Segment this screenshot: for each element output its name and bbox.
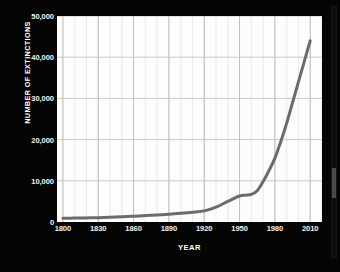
chart-figure: NUMBER OF EXTINCTIONS 010,00020,00030,00… (0, 0, 340, 272)
major-vertical-gridlines (63, 16, 310, 222)
x-axis-tick-label: 1950 (231, 224, 248, 233)
x-axis-tick-label: 1920 (196, 224, 213, 233)
data-series-lines (63, 41, 310, 219)
x-axis-title: YEAR (57, 243, 322, 252)
y-axis-tick-label: 20,000 (10, 135, 54, 144)
x-axis-tick-label: 1890 (161, 224, 178, 233)
chart-canvas (57, 16, 322, 222)
plot-area (57, 16, 322, 222)
x-axis-tick-label: 1800 (55, 224, 72, 233)
minor-vertical-gridlines (63, 16, 322, 222)
x-axis-tick-label: 1860 (125, 224, 142, 233)
y-axis-tick-label: 50,000 (10, 12, 54, 21)
x-axis-tick-label: 2010 (302, 224, 319, 233)
vertical-scrollbar-thumb[interactable] (332, 168, 336, 198)
x-axis-tick-labels: 18001830186018901920195019802010 (57, 224, 322, 238)
y-axis-tick-label: 10,000 (10, 176, 54, 185)
vertical-scrollbar-track[interactable] (331, 6, 337, 258)
y-axis-tick-labels: 010,00020,00030,00040,00050,000 (8, 0, 54, 272)
horizontal-gridlines (57, 16, 322, 181)
x-axis-tick-label: 1980 (267, 224, 284, 233)
x-axis-tick-label: 1830 (90, 224, 107, 233)
y-axis-tick-label: 0 (10, 218, 54, 227)
y-axis-tick-label: 30,000 (10, 94, 54, 103)
y-axis-tick-label: 40,000 (10, 53, 54, 62)
